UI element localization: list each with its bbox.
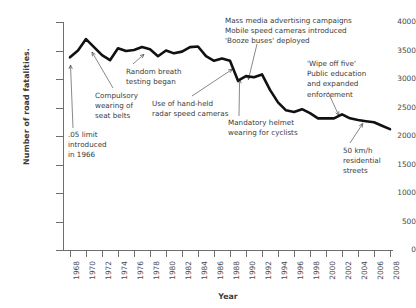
road-fatalities-line-chart: 05001000150020002500300035004000 1968197… (0, 0, 416, 308)
annotation-mass-media-campaigns: Mass media advertising campaigns Mobile … (225, 16, 365, 47)
annotation-wipe-off-five: 'Wipe off five' Public education and exp… (307, 59, 399, 100)
annotation-50kmh-residential: 50 km/h residential streets (343, 146, 399, 177)
annotation-compulsory-seat-belts: Compulsory wearing of seat belts (95, 91, 157, 122)
annotation-leader-line (350, 123, 363, 143)
annotation-leader-line (239, 79, 240, 116)
annotation-leader-line (133, 54, 144, 64)
annotation-leader-line (71, 65, 74, 128)
annotation-mandatory-helmets: Mandatory helmet wearing for cyclists (228, 118, 320, 138)
annotation-blood-alcohol-limit: .05 limit introduced in 1966 (68, 130, 138, 161)
annotation-random-breath-testing: Random breath testing began (126, 67, 204, 87)
annotation-radar-speed-cameras: Use of hand-held radar speed cameras (152, 99, 238, 119)
annotation-leader-line (248, 44, 257, 80)
annotation-leader-line (92, 52, 113, 88)
